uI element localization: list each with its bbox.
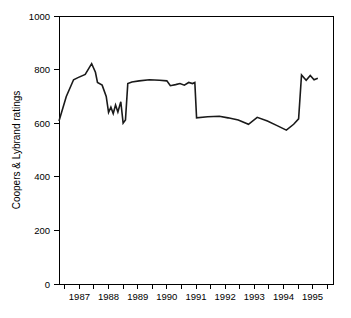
x-axis-tick-labels: 198719881989199019911992199319941995 [69,291,323,302]
y-tick-label: 600 [34,118,50,129]
x-tick-label: 1995 [302,291,323,302]
y-tick-label: 1000 [29,11,50,22]
x-tick-label: 1994 [273,291,294,302]
x-tick-label: 1991 [185,291,206,302]
x-tick-label: 1993 [244,291,265,302]
line-chart: 02004006008001000 1987198819891990199119… [0,0,351,318]
x-tick-label: 1990 [156,291,177,302]
y-axis-title: Coopers & Lybrand ratings [11,91,22,210]
x-tick-label: 1992 [215,291,236,302]
y-tick-label: 800 [34,64,50,75]
y-tick-label: 0 [45,279,50,290]
chart-figure: 02004006008001000 1987198819891990199119… [0,0,351,318]
y-tick-label: 400 [34,171,50,182]
x-tick-label: 1987 [69,291,90,302]
x-tick-label: 1989 [127,291,148,302]
x-tick-label: 1988 [98,291,119,302]
y-tick-label: 200 [34,225,50,236]
chart-background [0,0,351,318]
